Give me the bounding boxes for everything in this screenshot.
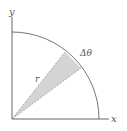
- y-axis-label: y: [8, 6, 15, 17]
- sector-wedge: [12, 52, 81, 119]
- angle-label: Δθ: [79, 48, 92, 58]
- polar-sector-diagram: y x r Δθ: [0, 0, 127, 131]
- x-axis-label: x: [111, 113, 117, 124]
- radius-label: r: [35, 74, 40, 84]
- diagram-canvas: y x r Δθ: [0, 0, 127, 131]
